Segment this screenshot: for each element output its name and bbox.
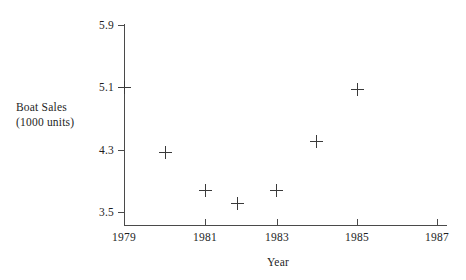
data-point-1985: [351, 83, 364, 96]
x-tick-label-1985: 1985: [335, 230, 379, 244]
data-point-1981: [199, 184, 212, 197]
y-tick-label-5-1: 5.1: [80, 80, 114, 94]
y-axis-ticks: [118, 26, 125, 213]
y-axis-title-line-2: (1000 units): [16, 115, 74, 130]
y-axis-title-line-1: Boat Sales: [16, 100, 74, 115]
y-axis-title: Boat Sales (1000 units): [16, 100, 74, 130]
chart-page: 5.9 5.1 4.3 3.5 1979 1981 1983 1985 1987…: [0, 0, 466, 280]
y-tick-label-5-9: 5.9: [80, 18, 114, 32]
x-tick-label-1979: 1979: [102, 230, 146, 244]
scatter-plot-canvas: [0, 0, 466, 280]
x-tick-label-1987: 1987: [415, 230, 459, 244]
y-tick-label-3-5: 3.5: [80, 205, 114, 219]
data-point-1983: [270, 184, 283, 197]
x-tick-label-1983: 1983: [255, 230, 299, 244]
data-point-1984: [310, 135, 323, 148]
x-tick-label-1981: 1981: [183, 230, 227, 244]
data-point-1982: [231, 197, 244, 210]
y-tick-label-4-3: 4.3: [80, 143, 114, 157]
data-point-markers: [118, 81, 364, 210]
data-point-1980: [159, 146, 172, 159]
data-point-1979: [118, 81, 131, 94]
x-axis-title: Year: [256, 255, 300, 269]
